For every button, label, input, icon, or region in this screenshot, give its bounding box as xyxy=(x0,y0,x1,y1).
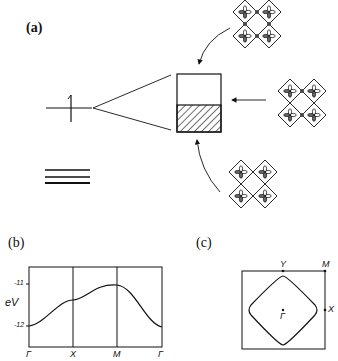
x-tick-gamma-end: Γ xyxy=(158,349,163,359)
figure-canvas xyxy=(0,0,338,361)
band-box xyxy=(177,74,221,132)
arrow-bottom xyxy=(197,140,220,192)
split-levels xyxy=(45,170,90,183)
band-broadening xyxy=(93,75,171,130)
x-tick-x: X xyxy=(70,349,76,359)
point-y-label: Y xyxy=(280,259,286,269)
y-tick-12: -12 xyxy=(14,321,24,328)
band-curve xyxy=(29,285,162,327)
x-tick-m: M xyxy=(113,349,121,359)
x-tick-gamma-start: Γ xyxy=(26,349,31,359)
y-tick-11: -11 xyxy=(14,279,24,286)
point-x-label: X xyxy=(328,304,334,314)
lattice-middle xyxy=(278,79,326,127)
lattice-bottom xyxy=(229,160,277,208)
arrow-top xyxy=(199,28,230,64)
panel-b-label: (b) xyxy=(8,235,24,251)
lattice-top xyxy=(233,0,281,48)
point-gamma-label: Γ xyxy=(280,311,285,321)
fermi-surface xyxy=(242,270,326,349)
y-axis-label: eV xyxy=(5,296,18,308)
panel-a-label: (a) xyxy=(26,20,42,36)
band-structure-chart xyxy=(26,267,162,347)
point-m-label: M xyxy=(322,259,330,269)
panel-c-label: (c) xyxy=(196,235,212,251)
energy-level xyxy=(46,95,92,122)
